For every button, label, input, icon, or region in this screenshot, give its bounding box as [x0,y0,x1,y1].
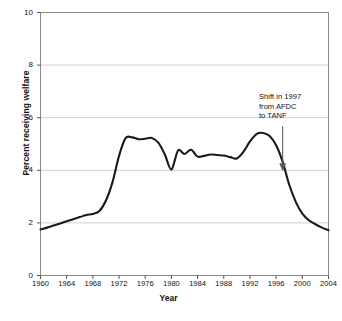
y-tick-marks [37,13,41,276]
shift-annotation-line-3: to TANF [259,111,301,121]
gridlines [41,65,329,223]
plot-frame [41,13,329,276]
x-axis-title: Year [0,293,337,303]
shift-annotation-text: Shift in 1997 from AFDC to TANF [259,92,301,121]
x-tick-label: 2004 [314,279,342,288]
y-tick-label: 2 [11,218,33,227]
shift-annotation-line-2: from AFDC [259,102,301,112]
shift-annotation-line-1: Shift in 1997 [259,92,301,102]
data-series-line [41,133,329,231]
y-tick-label: 8 [11,60,33,69]
annotation-arrow [279,126,286,171]
y-tick-label: 6 [11,113,33,122]
y-tick-label: 4 [11,165,33,174]
y-tick-label: 10 [11,8,33,17]
